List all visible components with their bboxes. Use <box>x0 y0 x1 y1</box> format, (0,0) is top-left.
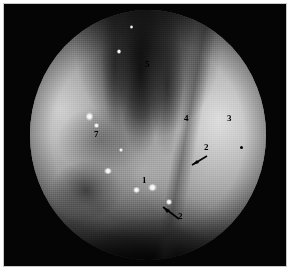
photo-plate: 5 7 4 3 2 1 2 <box>4 4 286 266</box>
annotation-label-2-lower: 2 <box>178 212 183 221</box>
dot-marker-right <box>240 146 243 149</box>
annotation-label-1: 1 <box>142 176 147 185</box>
field-vignette <box>30 10 266 260</box>
annotation-label-3: 3 <box>227 114 232 123</box>
annotation-label-2-upper: 2 <box>204 143 209 152</box>
annotation-label-7: 7 <box>94 130 99 139</box>
endoscopic-field-of-view <box>30 10 266 260</box>
figure-root: 5 7 4 3 2 1 2 <box>0 0 297 274</box>
annotation-label-5: 5 <box>145 60 150 69</box>
annotation-label-4: 4 <box>184 114 189 123</box>
